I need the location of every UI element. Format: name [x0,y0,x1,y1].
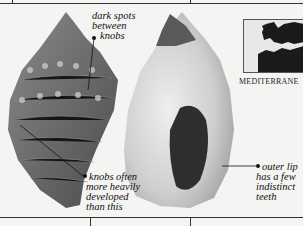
leader-dot [83,174,87,178]
bottom-rule [0,217,303,218]
map-inset [243,19,303,73]
europe-map-icon [244,20,303,72]
annotation-line: than this [86,202,140,212]
leader-dot [256,164,260,168]
annotation-knobs: knobs often more heavily developed than … [89,172,140,212]
rule-tick [190,217,191,226]
annotation-line: teeth [256,192,298,202]
map-label: MEDITERRANE [239,77,299,86]
annotation-outer-lip: outer lip has a few indistinct teeth [262,162,298,202]
rule-tick [90,217,91,226]
